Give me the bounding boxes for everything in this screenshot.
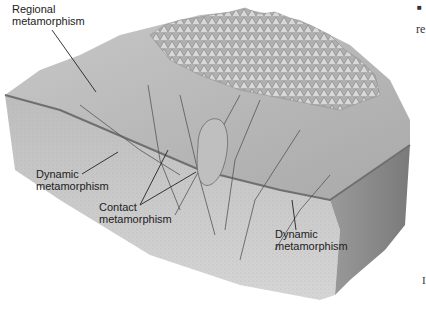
margin-text-fragment-top: re	[416, 22, 425, 37]
margin-text-fragment-bottom: I	[422, 274, 426, 286]
label-regional-metamorphism: Regional metamorphism	[12, 3, 85, 27]
label-dynamic-metamorphism-right: Dynamic metamorphism	[275, 228, 348, 252]
margin-bullet-icon: ■	[417, 3, 422, 12]
label-dynamic-metamorphism-left: Dynamic metamorphism	[36, 168, 109, 192]
label-contact-metamorphism: Contact metamorphism	[99, 201, 172, 225]
